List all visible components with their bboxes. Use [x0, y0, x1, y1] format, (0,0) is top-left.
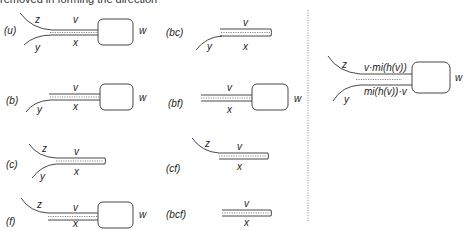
label-z: z: [41, 143, 47, 154]
label-x: x: [72, 37, 79, 48]
label-x: x: [72, 218, 79, 229]
panel-bf: (bf) v x w: [168, 82, 302, 115]
label-x: x: [73, 166, 80, 177]
panel-cf: (cf) z v x: [166, 138, 269, 174]
label-v: v: [243, 17, 249, 28]
label-w: w: [455, 72, 463, 83]
label-z: z: [36, 199, 42, 210]
label-x: x: [226, 104, 233, 115]
label-v: v: [244, 198, 250, 209]
case-label: (bc): [166, 27, 183, 38]
label-w: w: [139, 25, 147, 36]
label-top-strand: v·mi(h(v)): [364, 62, 407, 73]
panel-f: (f) z v x w: [6, 198, 147, 229]
box-w: [252, 84, 288, 110]
label-x: x: [236, 161, 243, 172]
box-w: [98, 202, 133, 228]
panel-result: z y v·mi(h(v)) mi(h(v))·v w: [328, 56, 463, 105]
label-z: z: [34, 14, 40, 25]
label-z: z: [341, 59, 347, 70]
diagram: (u) z v y x w (bc) v y x (b) v y x w (bf…: [0, 0, 466, 231]
label-y: y: [39, 171, 46, 182]
label-v: v: [74, 146, 80, 157]
panel-c: (c) z v y x: [6, 143, 106, 182]
panel-b: (b) v y x w: [6, 82, 147, 115]
label-x: x: [242, 41, 249, 52]
label-bottom-strand: mi(h(v))·v: [364, 86, 408, 97]
box-w: [100, 84, 133, 110]
label-y: y: [343, 94, 350, 105]
label-z: z: [204, 138, 210, 149]
label-y: y: [206, 41, 213, 52]
label-v: v: [73, 14, 79, 25]
case-label: (bf): [168, 98, 183, 109]
label-v: v: [227, 82, 233, 93]
panel-bcf: (bcf) v x: [166, 198, 272, 228]
label-w: w: [294, 93, 302, 104]
case-label: (c): [6, 159, 18, 170]
case-label: (f): [6, 216, 15, 227]
label-x: x: [72, 101, 79, 112]
strand-z: [20, 13, 98, 30]
case-label: (b): [6, 95, 18, 106]
label-v: v: [237, 141, 243, 152]
label-w: w: [139, 92, 147, 103]
tube: [192, 138, 269, 159]
panel-u: (u) z v y x w: [4, 13, 147, 53]
label-x: x: [243, 217, 250, 228]
label-y: y: [34, 42, 41, 53]
panel-bc: (bc) v y x: [166, 17, 272, 52]
case-label: (bcf): [166, 209, 186, 220]
box-w: [412, 62, 450, 93]
case-label: (cf): [166, 163, 180, 174]
label-y: y: [36, 104, 43, 115]
label-w: w: [139, 209, 147, 220]
label-v: v: [73, 82, 79, 93]
box-w: [98, 19, 133, 45]
label-v: v: [73, 202, 79, 213]
case-label: (u): [4, 25, 16, 36]
strand-z: [21, 198, 98, 213]
